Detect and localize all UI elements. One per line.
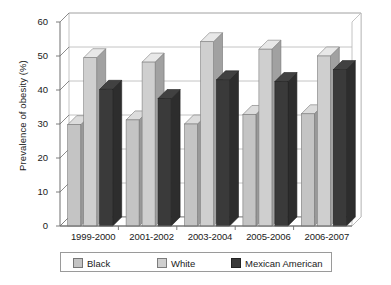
x-axis-tick-label: 2001-2002 bbox=[129, 231, 174, 242]
bar bbox=[275, 73, 297, 227]
legend-label: Mexican American bbox=[245, 258, 323, 269]
legend: BlackWhiteMexican American bbox=[60, 252, 332, 272]
legend-item: Black bbox=[73, 256, 110, 270]
x-axis-tick-label: 2003-2004 bbox=[188, 231, 233, 242]
bar bbox=[217, 71, 239, 226]
bar-chart: Prevalence of obesity (%) 0102030405060 … bbox=[0, 0, 391, 285]
x-axis-tick-labels: 1999-20002001-20022003-20042005-20062006… bbox=[0, 231, 391, 245]
legend-item: White bbox=[157, 256, 195, 270]
legend-item: Mexican American bbox=[231, 256, 323, 270]
legend-swatch-icon bbox=[231, 258, 241, 268]
x-axis-tick-label: 2006-2007 bbox=[305, 231, 350, 242]
legend-swatch-icon bbox=[157, 258, 167, 268]
x-axis-tick-label: 1999-2000 bbox=[71, 231, 116, 242]
legend-label: White bbox=[171, 258, 195, 269]
bar bbox=[333, 61, 355, 226]
legend-swatch-icon bbox=[73, 258, 83, 268]
bar bbox=[158, 90, 180, 227]
x-axis-tick-label: 2005-2006 bbox=[246, 231, 291, 242]
bar bbox=[100, 80, 122, 226]
legend-label: Black bbox=[87, 258, 110, 269]
